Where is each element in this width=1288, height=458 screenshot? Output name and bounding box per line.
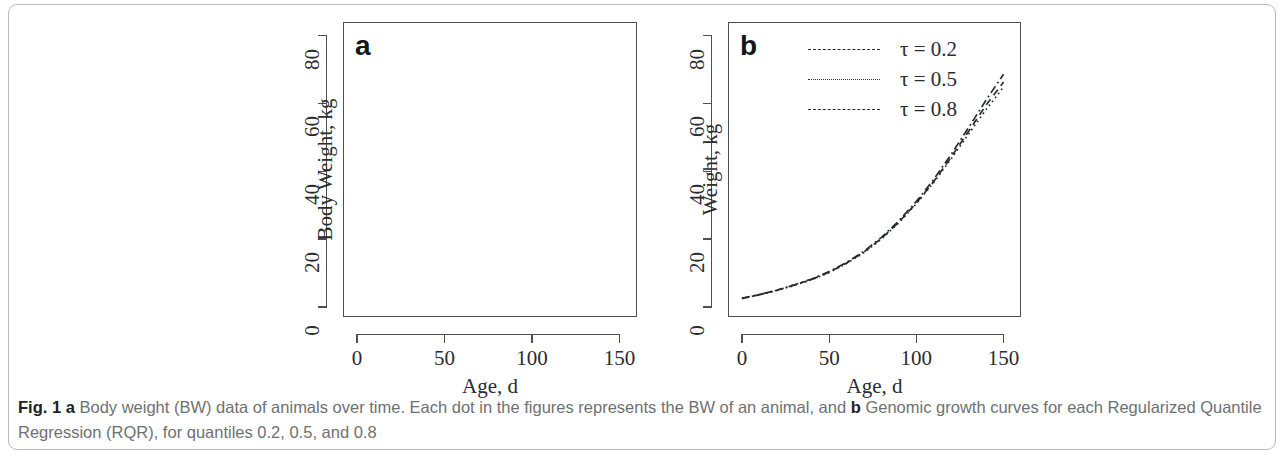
b-y-tick (703, 306, 712, 307)
legend-line-key-dotted (808, 79, 880, 80)
figure-root: a 050100150020406080 Age, d Body Weight,… (0, 0, 1288, 458)
b-x-tick-label: 150 (988, 346, 1020, 371)
b-x-tick-label: 100 (901, 346, 933, 371)
legend-item: τ = 0.2 (808, 34, 957, 64)
b-x-tick (829, 334, 830, 343)
legend-label: τ = 0.2 (900, 37, 957, 62)
legend-line-key-dash-dot (808, 109, 880, 110)
b-x-tick-label: 50 (819, 346, 840, 371)
figure-caption: Fig. 1 a Body weight (BW) data of animal… (18, 395, 1266, 445)
figure-caption-label-b: b (851, 398, 861, 416)
panel-b-legend: τ = 0.2τ = 0.5τ = 0.8 (808, 34, 957, 124)
b-y-tick-label: 80 (685, 37, 710, 81)
figure-caption-label: Fig. 1 a (18, 398, 75, 416)
legend-label: τ = 0.5 (900, 67, 957, 92)
panel-b-curve-lines (0, 0, 1288, 390)
b-x-tick (1003, 334, 1004, 343)
b-y-tick-label: 0 (685, 308, 710, 352)
legend-line-key-dashed (808, 49, 880, 50)
b-x-tick (741, 334, 742, 343)
legend-item: τ = 0.8 (808, 94, 957, 124)
panel-b-y-axis-title: Weight, kg (698, 79, 723, 259)
b-x-tick (916, 334, 917, 343)
b-y-tick (703, 35, 712, 36)
b-x-axis-line (742, 334, 1004, 335)
legend-item: τ = 0.5 (808, 64, 957, 94)
figure-caption-part-a: Body weight (BW) data of animals over ti… (75, 398, 851, 416)
b-x-tick-label: 0 (737, 346, 748, 371)
legend-label: τ = 0.8 (900, 97, 957, 122)
figure-panels: a 050100150020406080 Age, d Body Weight,… (0, 0, 1288, 390)
